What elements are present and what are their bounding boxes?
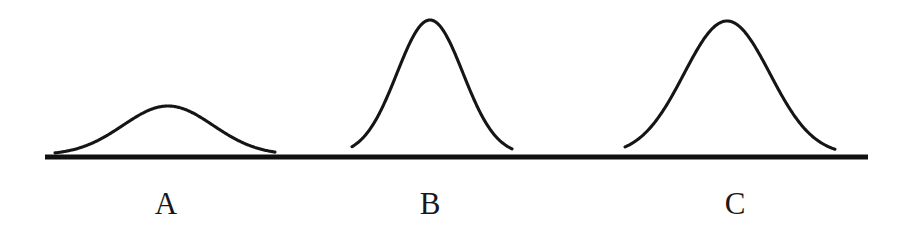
distribution-figure: A B C (0, 0, 910, 237)
distribution-curve-c (625, 21, 835, 149)
curve-label-a: A (136, 188, 196, 219)
curve-label-c: C (705, 188, 765, 219)
distribution-curve-b (352, 20, 512, 149)
curve-label-b: B (400, 188, 460, 219)
distribution-curve-a (55, 106, 275, 153)
